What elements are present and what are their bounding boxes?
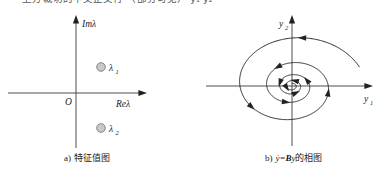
phase-portrait-panel: y 2 y 1 xyxy=(200,10,387,150)
y1-axis-subscript: 1 xyxy=(370,99,373,106)
spiral-direction-arrow xyxy=(298,35,306,41)
imaginary-axis xyxy=(73,15,79,148)
spiral-direction-arrow xyxy=(325,88,330,97)
svg-text:1: 1 xyxy=(116,68,119,75)
real-axis-label: Reλ xyxy=(115,99,130,109)
caption-a-index: a) xyxy=(64,153,71,163)
svg-text:2: 2 xyxy=(116,129,120,136)
eigenvalue-marker-lambda2: λ 2 xyxy=(97,124,120,136)
spiral-direction-arrow xyxy=(282,99,291,104)
imaginary-axis-label: Imλ xyxy=(81,19,96,29)
spiral-trajectory xyxy=(240,35,360,120)
spiral-direction-arrow xyxy=(274,63,283,69)
caption-b-text: 的相图 xyxy=(295,153,322,163)
spiral-direction-arrow xyxy=(282,83,289,92)
eigenvalue-plot-panel: Imλ Reλ O λ 1 λ 2 xyxy=(0,10,200,150)
figure-root: —— 上方裁切的中文正文行 （部分可见） y₁ y₂ —— Imλ Reλ O … xyxy=(0,0,387,181)
caption-b-index: b) xyxy=(265,153,273,163)
svg-text:λ: λ xyxy=(108,124,113,134)
eigenvalue-marker-lambda1: λ 1 xyxy=(97,63,119,75)
caption-eigenvalue-plot: a) 特征值图 xyxy=(64,152,110,164)
truncated-header-text: —— 上方裁切的中文正文行 （部分可见） y₁ y₂ —— xyxy=(0,0,387,10)
svg-text:λ: λ xyxy=(108,63,113,73)
origin-label: O xyxy=(65,97,72,107)
y1-axis xyxy=(206,83,373,89)
y1-axis-label: y xyxy=(363,94,369,104)
caption-phase-portrait: b) ẏ=By的相图 xyxy=(265,152,322,164)
real-axis xyxy=(8,90,147,96)
spiral-direction-arrow xyxy=(291,91,300,97)
spiral-direction-arrow xyxy=(304,77,311,85)
eigenvalue-plot-svg: Imλ Reλ O λ 1 λ 2 xyxy=(0,10,200,150)
caption-a-text: 特征值图 xyxy=(74,153,110,163)
phase-portrait-svg: y 2 y 1 xyxy=(200,10,387,150)
y2-axis-subscript: 2 xyxy=(285,24,289,31)
y2-axis-label: y xyxy=(278,19,284,29)
